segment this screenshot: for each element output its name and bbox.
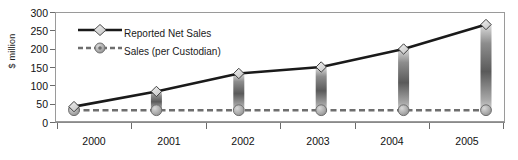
x-tick-label-2002: 2002: [220, 136, 266, 147]
x-tick-label-2005: 2005: [444, 136, 490, 147]
datapoint-custodian-2005: [481, 105, 492, 116]
x-axis-tick-labels: 2000 2001 2002 2003 2004 2005: [55, 136, 505, 152]
x-tick-mark-1: [131, 123, 132, 129]
x-tick-mark-3: [280, 123, 281, 129]
dropbar-2005: [481, 25, 492, 111]
y-tick-label-250: 250: [18, 26, 48, 37]
datapoint-custodian-2003: [316, 105, 327, 116]
y-tick-label-150: 150: [18, 63, 48, 74]
y-tick-label-50: 50: [18, 99, 48, 110]
chart-container: $ million 300 250 200 150 100 50 0: [0, 0, 518, 160]
y-tick-label-0: 0: [18, 118, 48, 129]
legend-label-sales-per-custodian: Sales (per Custodian): [124, 47, 221, 57]
y-tick-label-100: 100: [18, 81, 48, 92]
x-tick-mark-4: [355, 123, 356, 129]
y-tick-label-200: 200: [18, 44, 48, 55]
dropbar-2004: [398, 49, 409, 110]
datapoint-custodian-2002: [233, 105, 244, 116]
x-tick-label-2004: 2004: [369, 136, 415, 147]
y-axis-tick-labels: 300 250 200 150 100 50 0: [14, 0, 48, 160]
x-tick-mark-6: [503, 123, 504, 129]
y-tick-label-300: 300: [18, 8, 48, 19]
x-tick-mark-0: [57, 123, 58, 129]
legend-marker-sales-per-custodian: [78, 41, 122, 55]
datapoint-custodian-2001: [151, 105, 162, 116]
legend-marker-reported-net-sales: [78, 23, 122, 37]
legend-label-reported-net-sales: Reported Net Sales: [124, 29, 211, 39]
plot-area: Reported Net Sales Sales (per Custodian): [55, 12, 505, 122]
dropbar-2003: [316, 67, 327, 110]
x-tick-mark-2: [206, 123, 207, 129]
x-tick-label-2000: 2000: [71, 136, 117, 147]
x-tick-label-2003: 2003: [295, 136, 341, 147]
x-tick-label-2001: 2001: [146, 136, 192, 147]
x-tick-mark-5: [429, 123, 430, 129]
datapoint-custodian-2004: [398, 105, 409, 116]
